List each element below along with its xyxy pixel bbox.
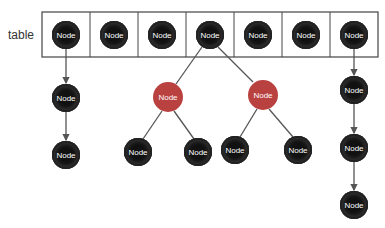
table-label: table	[8, 28, 34, 42]
tree-edge	[240, 109, 257, 137]
tree-edge	[143, 111, 162, 139]
table-cell-node: Node	[292, 21, 320, 49]
tree-edge	[218, 47, 253, 82]
black-node: Node	[124, 138, 152, 166]
black-node: Node	[340, 191, 368, 219]
red-tree-node: Node	[248, 80, 278, 110]
table-cell-node: Node	[196, 21, 224, 49]
table-cell-node: Node	[100, 21, 128, 49]
table-cell-node: Node	[52, 21, 80, 49]
edges	[66, 47, 354, 190]
table-cell-node: Node	[244, 21, 272, 49]
table-cell-node: Node	[340, 21, 368, 49]
black-node: Node	[52, 141, 80, 169]
black-node: Node	[340, 134, 368, 162]
tree-edge	[174, 111, 194, 139]
black-node: Node	[52, 84, 80, 112]
tree-edge	[269, 109, 293, 137]
hash-table-diagram: table NodeNodeNodeNodeNodeNodeNodeNodeNo…	[0, 0, 385, 228]
red-tree-node: Node	[153, 82, 183, 112]
black-node: Node	[284, 136, 312, 164]
black-node: Node	[184, 138, 212, 166]
tree-edge	[176, 47, 202, 84]
table-cell-node: Node	[148, 21, 176, 49]
black-node: Node	[340, 76, 368, 104]
black-node: Node	[221, 136, 249, 164]
